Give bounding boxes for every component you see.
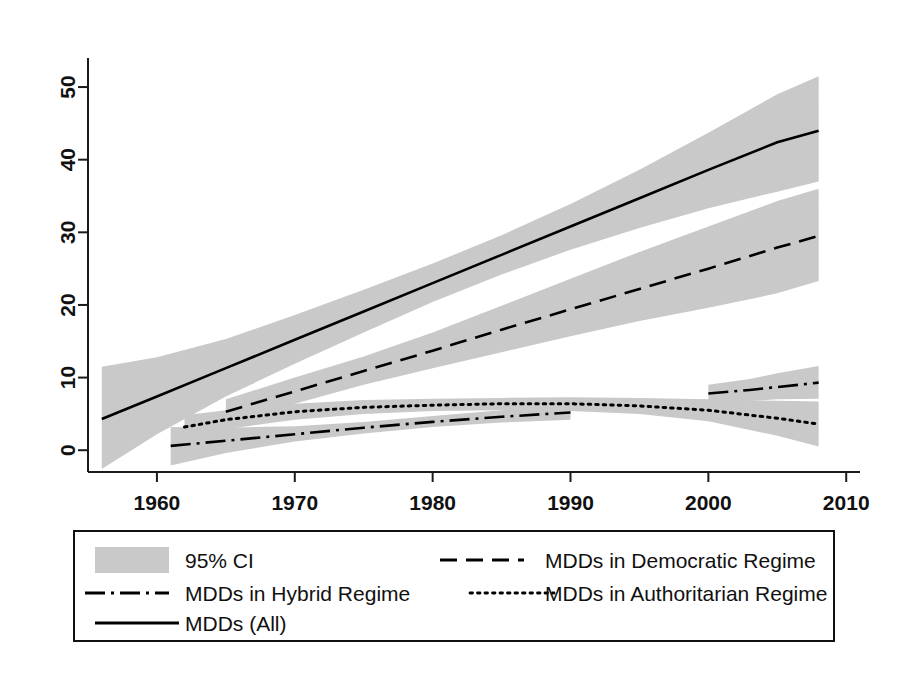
y-tick-label-30: 30 xyxy=(57,221,80,244)
x-tick-label-1970: 1970 xyxy=(271,491,318,514)
mdds-trend-chart: 01020304050 196019701980199020002010 95%… xyxy=(0,0,899,677)
chart-root: 01020304050 196019701980199020002010 95%… xyxy=(0,0,899,677)
legend-key-ci-band xyxy=(95,547,169,573)
legend-label-4: MDDs (All) xyxy=(185,612,286,635)
y-tick-label-50: 50 xyxy=(57,75,80,98)
y-tick-label-40: 40 xyxy=(57,148,80,171)
legend-label-3: MDDs in Authoritarian Regime xyxy=(545,582,827,605)
x-tick-label-2000: 2000 xyxy=(685,491,732,514)
chart-legend: 95% CIMDDs in Democratic RegimeMDDs in H… xyxy=(74,531,834,641)
legend-label-0: 95% CI xyxy=(185,549,254,572)
x-tick-label-1990: 1990 xyxy=(547,491,594,514)
y-tick-label-10: 10 xyxy=(57,366,80,389)
x-tick-label-1980: 1980 xyxy=(409,491,456,514)
legend-label-1: MDDs in Democratic Regime xyxy=(545,549,816,572)
x-tick-label-2010: 2010 xyxy=(823,491,870,514)
x-tick-label-1960: 1960 xyxy=(134,491,181,514)
legend-label-2: MDDs in Hybrid Regime xyxy=(185,582,410,605)
y-tick-label-0: 0 xyxy=(57,444,80,456)
y-tick-label-20: 20 xyxy=(57,293,80,316)
